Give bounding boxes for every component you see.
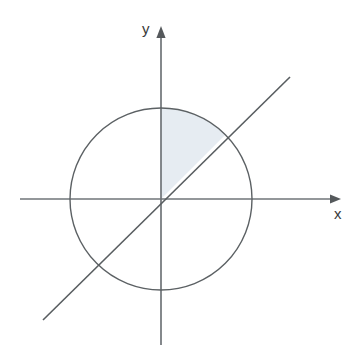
shaded-sector-region [161,108,225,199]
x-axis-arrowhead-icon [330,195,341,204]
math-figure: y x [0,0,353,350]
coordinate-plane-diagram [0,0,353,350]
y-axis-label: y [142,21,150,36]
y-axis-arrowhead-icon [156,26,165,38]
x-axis-label: x [334,206,342,221]
